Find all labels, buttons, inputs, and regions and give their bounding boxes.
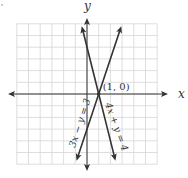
intersection-label: (1, 0)	[103, 81, 130, 92]
intersection-point	[97, 92, 101, 96]
axes	[8, 18, 168, 171]
chart-canvas: x y (1, 0) 3x − y = 3 4x + y = 4	[0, 0, 188, 178]
y-axis-label: y	[83, 0, 91, 13]
stray-dot	[1, 4, 3, 6]
labels: x y (1, 0) 3x − y = 3 4x + y = 4	[66, 0, 185, 152]
x-axis-label: x	[178, 87, 185, 101]
